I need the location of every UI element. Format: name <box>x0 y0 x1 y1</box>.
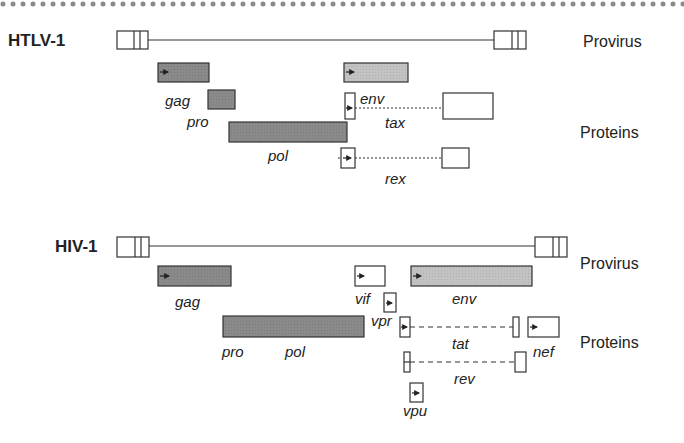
gene-label: env <box>360 90 386 107</box>
htlv1-provirus <box>117 31 526 49</box>
hiv1-proteins-label: Proteins <box>580 334 639 351</box>
hiv1-vif-gene: vif <box>355 266 385 307</box>
hiv1-label: HIV-1 <box>55 237 98 256</box>
ltr-right <box>535 237 567 257</box>
gene-label: gag <box>175 293 201 310</box>
gene-label: env <box>452 290 478 307</box>
htlv1-gag-gene: gag <box>158 63 209 109</box>
gene-label: vpr <box>371 312 393 329</box>
ltr-left <box>117 237 149 257</box>
gene-label: gag <box>165 92 191 109</box>
htlv1-provirus-label: Provirus <box>583 33 642 50</box>
gene-label: pol <box>267 147 289 164</box>
htlv1-pro-gene: pro <box>186 90 235 130</box>
hiv1-rev-gene: rev <box>404 352 526 387</box>
gene-label-pol: pol <box>284 343 306 360</box>
gene-label: rex <box>385 170 406 187</box>
hiv1-pol-gene: pro pol <box>221 316 364 360</box>
gene-label: tat <box>452 335 470 352</box>
gene-label: rev <box>454 370 476 387</box>
ltr-right <box>494 31 526 49</box>
hiv1-provirus-label: Provirus <box>580 255 639 272</box>
gene-label: vif <box>355 290 372 307</box>
hiv1-provirus <box>117 237 567 257</box>
ltr-left <box>117 31 148 49</box>
htlv1-label: HTLV-1 <box>8 31 65 50</box>
hiv1-nef-gene: nef <box>528 317 559 360</box>
gene-label: pro <box>186 113 209 130</box>
retrovirus-genome-diagram: HTLV-1 Provirus Proteins gag pro pol <box>0 0 684 443</box>
htlv1-proteins-label: Proteins <box>580 124 639 141</box>
hiv1-panel: HIV-1 Provirus Proteins gag pro pol <box>55 237 639 419</box>
gene-label: vpu <box>403 402 428 419</box>
htlv1-pol-gene: pol <box>229 122 347 164</box>
gene-label: tax <box>385 114 406 131</box>
htlv1-rex-gene: rex <box>338 148 469 187</box>
gene-label-pro: pro <box>221 343 244 360</box>
hiv1-env-gene: env <box>411 266 532 307</box>
hiv1-vpu-gene: vpu <box>403 383 428 419</box>
hiv1-tat-gene: tat <box>400 317 519 352</box>
gene-label: nef <box>533 343 556 360</box>
hiv1-gag-gene: gag <box>158 266 231 310</box>
hiv1-vpr-gene: vpr <box>371 293 396 329</box>
htlv1-panel: HTLV-1 Provirus Proteins gag pro pol <box>8 31 642 187</box>
